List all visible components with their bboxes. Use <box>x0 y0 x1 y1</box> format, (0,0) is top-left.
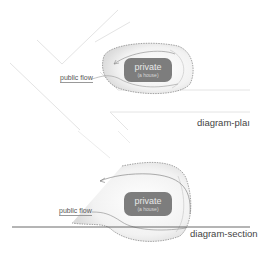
plan-private-label: private <box>124 62 172 72</box>
plan-caption: diagram-plaı <box>197 117 250 128</box>
section-flow-label: public flow <box>59 207 92 216</box>
plan-private-sublabel: (a house) <box>124 72 172 78</box>
section-private-box: private (a house) <box>124 192 172 216</box>
section-caption: diagram-section <box>190 228 258 239</box>
section-street-lines <box>78 131 130 158</box>
section-private-sublabel: (a house) <box>124 206 172 212</box>
diagram-canvas <box>0 0 274 262</box>
plan-flow-label: public flow <box>60 74 93 83</box>
section-private-label: private <box>124 196 172 206</box>
plan-private-box: private (a house) <box>124 58 172 82</box>
